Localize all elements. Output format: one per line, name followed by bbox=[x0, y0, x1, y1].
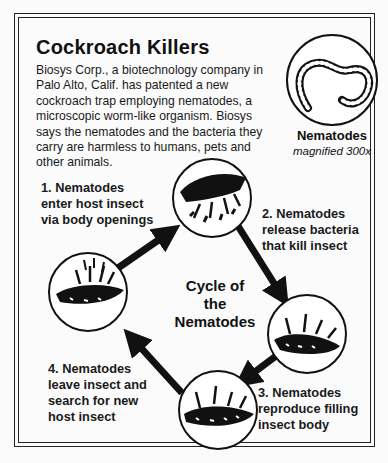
step-2-line: that kill insect bbox=[262, 238, 359, 254]
nematode-caption: magnified 300x bbox=[282, 145, 382, 157]
stage-1-insect-icon bbox=[173, 159, 251, 237]
step-4-line: 4. Nematodes bbox=[48, 361, 147, 377]
center-title-line: Cycle of bbox=[160, 277, 270, 295]
step-4-line: host insect bbox=[48, 409, 147, 425]
step-4-line: search for new bbox=[48, 393, 147, 409]
step-3-label: 3. Nematodes reproduce filling insect bo… bbox=[258, 385, 358, 433]
step-2-label: 2. Nematodes release bacteria that kill … bbox=[262, 206, 359, 254]
step-3-line: 3. Nematodes bbox=[258, 385, 358, 401]
nematode-magnified-icon bbox=[287, 35, 377, 125]
step-3-line: insect body bbox=[258, 417, 358, 433]
center-title-line: the bbox=[160, 295, 270, 313]
center-title-line: Nematodes bbox=[160, 313, 270, 331]
step-1-line: 1. Nematodes bbox=[41, 180, 153, 196]
stage-2-insect-icon bbox=[268, 295, 346, 373]
step-1-label: 1. Nematodes enter host insect via body … bbox=[41, 180, 153, 228]
stage-4-insect-icon bbox=[49, 253, 127, 331]
step-3-line: reproduce filling bbox=[258, 401, 358, 417]
step-1-line: via body openings bbox=[41, 212, 153, 228]
step-4-line: leave insect and bbox=[48, 377, 147, 393]
stage-3-insect-icon bbox=[179, 371, 257, 449]
step-2-line: 2. Nematodes bbox=[262, 206, 359, 222]
arrow-2-to-3 bbox=[244, 356, 276, 380]
arrow-4-to-1 bbox=[118, 232, 170, 268]
step-1-line: enter host insect bbox=[41, 196, 153, 212]
cycle-center-title: Cycle of the Nematodes bbox=[160, 277, 270, 331]
step-4-label: 4. Nematodes leave insect and search for… bbox=[48, 361, 147, 425]
step-2-line: release bacteria bbox=[262, 222, 359, 238]
nematode-label: Nematodes bbox=[282, 128, 382, 143]
